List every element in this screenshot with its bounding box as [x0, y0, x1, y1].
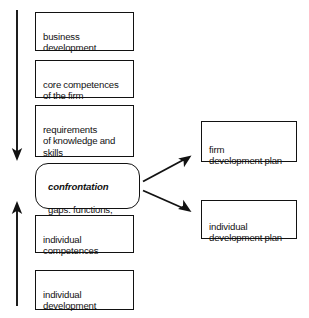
node-core-competences[interactable]: core competences of the firm: [35, 60, 134, 98]
upward-flow-arrow: [12, 201, 22, 306]
node-label: firm development plan: [209, 144, 282, 167]
node-requirements-knowledge-skills[interactable]: requirements of knowledge and skills: [35, 105, 134, 157]
node-individual-development[interactable]: individual development: [35, 270, 134, 310]
node-firm-development-plan[interactable]: firm development plan: [201, 121, 297, 162]
node-confrontation[interactable]: confrontation gaps: functions, skills, j…: [35, 163, 140, 209]
node-label: requirements of knowledge and skills: [43, 124, 115, 158]
node-individual-competences[interactable]: individual competences: [35, 215, 134, 253]
node-individual-development-plan[interactable]: individual development plan: [201, 200, 297, 239]
node-label: individual competences: [43, 234, 98, 257]
arrow-to-firm-plan: [143, 155, 192, 181]
node-label: business development: [43, 31, 96, 54]
downward-flow-arrow: [12, 10, 22, 161]
arrow-to-individual-plan: [143, 191, 192, 213]
node-label: core competences of the firm: [43, 79, 119, 102]
node-lead-label: confrontation: [48, 181, 139, 193]
node-label: individual development: [43, 289, 96, 312]
diagram-canvas: business development core competences of…: [0, 0, 309, 318]
node-label: individual development plan: [209, 221, 282, 244]
node-business-development[interactable]: business development: [35, 12, 134, 51]
